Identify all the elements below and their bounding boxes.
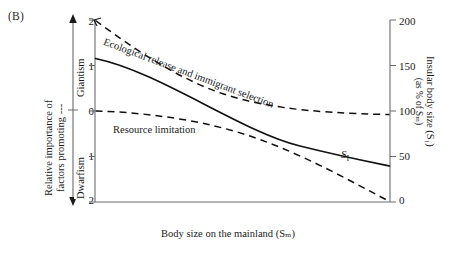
curve-label-resource-limitation: Resource limitation [113, 124, 196, 135]
figure-panel-b: (B) Giantism Dwarfism Relative importanc… [0, 0, 456, 253]
curve-ecological-release [96, 21, 390, 115]
x-axis-caption: Body size on the mainland (Sₘ) [0, 227, 456, 239]
right-axis-ticks [390, 20, 396, 202]
curve-label-si: SI [341, 148, 349, 163]
plot-area [0, 0, 456, 253]
curve-label-si-subscript: I [347, 154, 350, 163]
left-axis-ticks [89, 20, 95, 202]
